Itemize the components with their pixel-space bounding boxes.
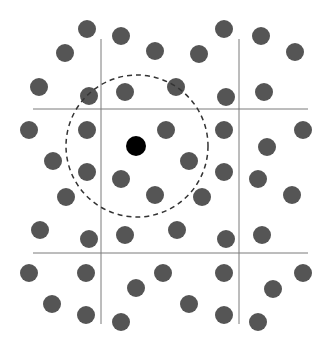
- gray-dot: [283, 186, 301, 204]
- dot-field: [20, 20, 312, 331]
- gray-dot: [215, 20, 233, 38]
- gray-dot: [217, 88, 235, 106]
- gray-dot: [190, 45, 208, 63]
- gray-dot: [215, 163, 233, 181]
- gray-dot: [168, 221, 186, 239]
- gray-dot: [255, 83, 273, 101]
- gray-dot: [77, 306, 95, 324]
- gray-dot: [294, 264, 312, 282]
- gray-dot: [116, 226, 134, 244]
- gray-dot: [30, 78, 48, 96]
- gray-dot: [193, 188, 211, 206]
- gray-dot: [112, 170, 130, 188]
- gray-dot: [78, 20, 96, 38]
- gray-dot: [20, 264, 38, 282]
- gray-dot: [56, 44, 74, 62]
- gray-dot: [80, 87, 98, 105]
- gray-dot: [258, 138, 276, 156]
- gray-dot: [249, 313, 267, 331]
- gray-dot: [127, 279, 145, 297]
- gray-dot: [167, 78, 185, 96]
- gray-dot: [43, 295, 61, 313]
- gray-dot: [217, 230, 235, 248]
- gray-dot: [180, 295, 198, 313]
- gray-dot: [31, 221, 49, 239]
- gray-dot: [146, 42, 164, 60]
- gray-dot: [180, 152, 198, 170]
- gray-dot: [294, 121, 312, 139]
- gray-dot: [264, 280, 282, 298]
- gray-dot: [154, 264, 172, 282]
- gray-dot: [249, 170, 267, 188]
- gray-dot: [215, 121, 233, 139]
- gray-dot: [78, 121, 96, 139]
- gray-dot: [116, 83, 134, 101]
- gray-dot: [157, 121, 175, 139]
- dot-grid-diagram: [0, 0, 330, 350]
- gray-dot: [286, 43, 304, 61]
- gray-dot: [20, 121, 38, 139]
- gray-dot: [215, 264, 233, 282]
- gray-dot: [57, 188, 75, 206]
- gray-dot: [112, 27, 130, 45]
- gray-dot: [112, 313, 130, 331]
- focus-dot: [126, 136, 146, 156]
- gray-dot: [146, 186, 164, 204]
- gray-dot: [44, 152, 62, 170]
- gray-dot: [252, 27, 270, 45]
- gray-dot: [215, 306, 233, 324]
- gray-dot: [253, 226, 271, 244]
- gray-dot: [77, 264, 95, 282]
- gray-dot: [80, 230, 98, 248]
- gray-dot: [78, 163, 96, 181]
